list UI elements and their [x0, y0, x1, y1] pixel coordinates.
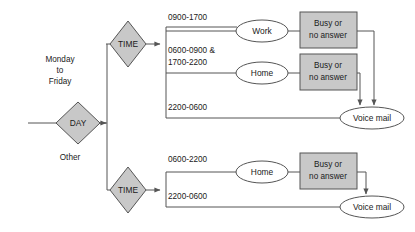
busy-home-label-line2: no answer [309, 73, 347, 82]
edge-label-night-top: 2200-0600 [168, 103, 208, 112]
edge-label-monday-friday-line1: Monday [45, 55, 75, 64]
edge-label-offhours: 0600-0900 & 1700-2200 [168, 46, 215, 67]
node-work[interactable]: Work [236, 20, 288, 42]
node-home-bottom[interactable]: Home [236, 161, 288, 183]
voicemail-bottom-label: Voice mail [353, 202, 391, 212]
busy-work-label-line2: no answer [309, 31, 347, 40]
time-bottom-label: TIME [118, 185, 138, 195]
busy-other-label-line2: no answer [309, 172, 347, 181]
busy-home-label-line1: Busy or [314, 61, 342, 70]
edge-label-monday-friday: Monday to Friday [45, 55, 75, 86]
node-voicemail-top[interactable]: Voice mail [340, 107, 404, 129]
edge-label-monday-friday-line2: to [57, 66, 64, 75]
node-voicemail-bottom[interactable]: Voice mail [340, 196, 404, 218]
flowchart-diagram: DAY TIME TIME Work Home Home [0, 0, 415, 232]
home-top-label: Home [251, 68, 274, 78]
busy-work-box-shape [300, 12, 357, 48]
edge-label-other: Other [60, 153, 81, 162]
time-top-label: TIME [118, 39, 138, 49]
node-day[interactable]: DAY [56, 102, 100, 144]
node-busy-work[interactable]: Busy or no answer [300, 12, 357, 48]
node-busy-home[interactable]: Busy or no answer [300, 54, 357, 90]
busy-work-label-line1: Busy or [314, 19, 342, 28]
node-time-top[interactable]: TIME [110, 21, 146, 67]
node-busy-other[interactable]: Busy or no answer [300, 153, 357, 189]
edge-label-night-bottom: 2200-0600 [168, 192, 208, 201]
edge-label-offhours-line1: 0600-0900 & [168, 46, 215, 55]
busy-other-box-shape [300, 153, 357, 189]
busy-home-box-shape [300, 54, 357, 90]
node-time-bottom[interactable]: TIME [110, 167, 146, 213]
edge-label-business-hours: 0900-1700 [168, 13, 208, 22]
connector-busy-other-to-voicemail [357, 172, 366, 194]
day-label: DAY [70, 118, 87, 128]
edge-label-monday-friday-line3: Friday [49, 77, 73, 86]
edge-label-day-hours: 0600-2200 [168, 155, 208, 164]
node-home-top[interactable]: Home [236, 62, 288, 84]
voicemail-top-label: Voice mail [353, 113, 391, 123]
home-bottom-label: Home [251, 167, 274, 177]
busy-other-label-line1: Busy or [314, 160, 342, 169]
work-label: Work [252, 26, 272, 36]
diagram-canvas: DAY TIME TIME Work Home Home [0, 0, 415, 232]
edge-label-offhours-line2: 1700-2200 [168, 58, 208, 67]
